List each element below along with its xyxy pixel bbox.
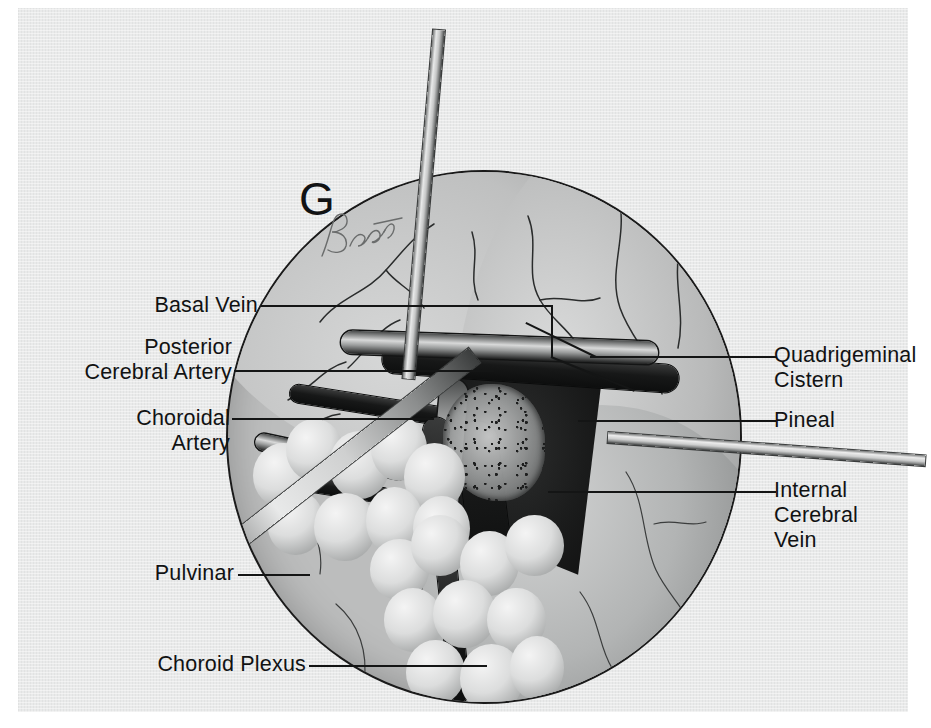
leader-posterior-cerebral-artery-extension (306, 370, 494, 372)
label-choroid-plexus: Choroid Plexus (124, 652, 306, 677)
artist-signature (314, 206, 424, 262)
choroid-plexus-inferior (361, 511, 586, 704)
leader-quadrigeminal-cistern (718, 356, 776, 358)
leader-pineal (578, 420, 776, 422)
leader-basal-vein-drop (551, 305, 553, 357)
label-quadrigeminal-cistern: Quadrigeminal Cistern (774, 343, 931, 393)
leader-choroid-plexus (309, 665, 487, 667)
leader-choroidal-artery-extension (306, 418, 434, 420)
leader-internal-cerebral-vein (548, 491, 776, 493)
label-choroidal-artery: Choroidal Artery (78, 406, 230, 456)
label-posterior-cerebral-artery: Posterior Cerebral Artery (32, 335, 232, 385)
leader-posterior-cerebral-artery (234, 370, 308, 372)
label-basal-vein: Basal Vein (128, 293, 258, 318)
leader-quadrigeminal-cistern-extension (590, 356, 722, 358)
label-pineal: Pineal (774, 408, 894, 433)
leader-basal-vein-extension (308, 305, 552, 307)
scanned-paper-panel: G Basal Vein Posterior Cerebral Artery (18, 8, 908, 712)
leader-choroidal-artery (232, 418, 308, 420)
leader-pulvinar (238, 574, 310, 576)
label-pulvinar: Pulvinar (118, 561, 234, 586)
leader-basal-vein-horizontal (261, 305, 311, 307)
label-internal-cerebral-vein: Internal Cerebral Vein (774, 478, 924, 553)
